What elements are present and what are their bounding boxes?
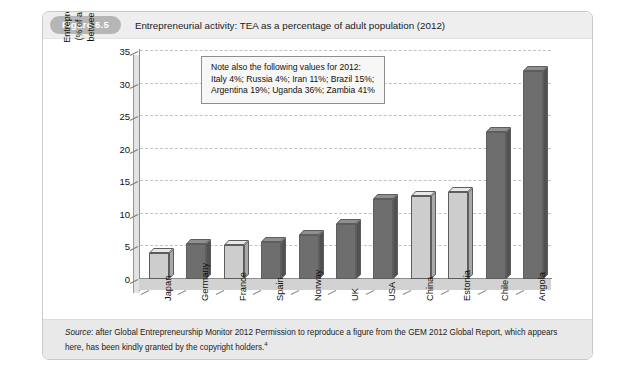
y-tick-label: 10 — [119, 208, 130, 219]
bar-side-face — [169, 248, 174, 279]
bar-front-face — [448, 192, 468, 279]
x-axis-label-chile: Chile — [500, 280, 510, 301]
bar[interactable] — [336, 224, 356, 279]
y-tick-label: 30 — [119, 78, 130, 89]
bar-side-face — [356, 219, 361, 279]
x-axis-label-angola: Angola — [537, 272, 547, 301]
x-axis-label-france: France — [238, 272, 248, 301]
bar[interactable] — [486, 132, 506, 279]
bar-front-face — [411, 196, 431, 279]
figure-page: Figure 6.5 Entrepreneurial activity: TEA… — [0, 0, 635, 380]
x-axis-label-germany: Germany — [200, 263, 210, 301]
bar[interactable] — [261, 242, 281, 279]
y-axis-title-line-3: between 18–64 years) — [85, 11, 97, 77]
bar-side-face — [393, 194, 398, 279]
y-tick-label: 5 — [125, 241, 130, 252]
x-axis-label-norway: Norway — [313, 269, 323, 301]
bar-top-face — [299, 230, 324, 235]
bar-side-face — [543, 66, 548, 279]
bar[interactable] — [448, 192, 468, 279]
bar[interactable] — [523, 71, 543, 279]
x-tick-mark — [478, 290, 487, 295]
y-tick-label: 20 — [119, 143, 130, 154]
bar-side-face — [431, 191, 436, 279]
bar-side-face — [468, 188, 473, 279]
plot-region: 05101520253035 Note also the following v… — [139, 51, 551, 289]
bar-front-face — [373, 199, 393, 279]
source-footnote-marker: 4 — [264, 341, 267, 347]
y-axis-title-line-2: (% of adult population — [73, 11, 85, 77]
annotation-line-3: Argentina 19%; Uganda 36%; Zambia 41% — [211, 85, 375, 97]
bar-side-face — [506, 128, 511, 279]
y-tick-label: 0 — [125, 274, 130, 285]
x-tick-mark — [403, 290, 412, 295]
bar-front-face — [486, 132, 506, 279]
bar[interactable] — [411, 196, 431, 279]
annotation-box: Note also the following values for 2012:… — [201, 56, 385, 104]
y-tick-label: 35 — [119, 46, 130, 57]
x-tick-mark — [365, 290, 374, 295]
figure-title-bar: Figure 6.5 Entrepreneurial activity: TEA… — [43, 12, 592, 39]
x-tick-mark — [291, 290, 300, 295]
bar-front-face — [523, 71, 543, 279]
chart-area: Entrepreneurial activity (% of adult pop… — [43, 39, 592, 328]
bar[interactable] — [373, 199, 393, 279]
bar-front-face — [261, 242, 281, 279]
source-text: : after Global Entrepreneurship Monitor … — [65, 328, 557, 351]
annotation-line-1: Note also the following values for 2012: — [211, 62, 375, 74]
y-tick-label: 25 — [119, 111, 130, 122]
x-tick-mark — [253, 290, 262, 295]
x-axis-label-china: China — [425, 277, 435, 301]
bar-side-face — [281, 237, 286, 279]
y-tick-label: 15 — [119, 176, 130, 187]
x-axis-label-estonia: Estonia — [462, 270, 472, 301]
bar-front-face — [336, 224, 356, 279]
x-tick-mark — [515, 290, 524, 295]
x-axis-label-spain: Spain — [275, 277, 285, 301]
source-label: Source — [65, 328, 91, 337]
x-axis-label-uk: UK — [350, 288, 360, 301]
x-tick-mark — [216, 290, 225, 295]
figure-caption: Entrepreneurial activity: TEA as a perce… — [135, 20, 445, 31]
x-tick-mark — [178, 290, 187, 295]
x-tick-mark — [328, 290, 337, 295]
y-axis-title-line-1: Entrepreneurial activity — [61, 11, 73, 77]
source-note: Source: after Global Entrepreneurship Mo… — [43, 319, 592, 359]
y-axis-title: Entrepreneurial activity (% of adult pop… — [61, 11, 97, 77]
x-axis-label-japan: Japan — [163, 276, 173, 301]
x-axis-label-usa: USA — [387, 282, 397, 301]
x-tick-mark — [440, 290, 449, 295]
annotation-line-2: Italy 4%; Russia 4%; Iran 11%; Brazil 15… — [211, 74, 375, 86]
bar-top-face — [411, 191, 436, 196]
x-tick-mark — [141, 290, 150, 295]
figure-box: Figure 6.5 Entrepreneurial activity: TEA… — [42, 11, 593, 360]
